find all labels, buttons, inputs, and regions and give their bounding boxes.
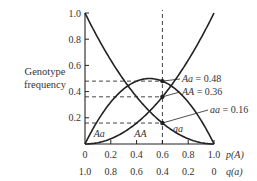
y-tick-label: 0.4 [69,86,82,97]
annotation-genotype: AA [181,86,195,97]
annotation-AA: AA = 0.36 [181,86,222,97]
y-tick-label: 1.0 [69,8,82,19]
annotation-value: = 0.36 [194,86,222,97]
curve-label-AA: AA [133,128,147,139]
y-tick-label: 0.8 [69,34,82,45]
x-tick-label: 0.8 [182,149,195,160]
y-axis-label-line-1: Genotype [25,66,66,77]
annotation-genotype: Aa [181,73,193,84]
x-tick-label: 0.4 [130,149,143,160]
y-tick-label: 0.6 [69,60,82,71]
x2-axis-label: q(a) [226,166,243,178]
curve-label-Aa: Aa [93,128,105,139]
leader-Aa [162,79,180,81]
x-axis-label: p(A) [225,149,244,161]
y-axis-label-line-2: frequency [24,79,67,90]
x-tick-label: 1.0 [208,149,221,160]
annotation-value: = 0.16 [220,104,248,115]
y-axis-label: Genotype frequency [24,66,67,90]
annotation-Aa: Aa = 0.48 [181,73,221,84]
hardy-weinberg-chart: Genotype frequency 01.00.20.80.40.60.60.… [0,0,257,181]
x-tick-label: 0.6 [156,149,169,160]
x-tick-label: 0.2 [105,149,118,160]
y-tick-label: 0.2 [69,112,82,123]
x2-tick-label: 0.8 [105,166,118,177]
x2-tick-label: 0 [212,166,217,177]
annotation-aa: aa = 0.16 [210,104,248,115]
annotation-genotype: aa [210,104,220,115]
x2-tick-label: 0.4 [156,166,169,177]
x2-tick-label: 0.2 [182,166,195,177]
annotation-value: = 0.48 [193,73,221,84]
curve-label-aa: aa [173,123,183,134]
point-aa [160,121,164,125]
x-tick-label: 0 [83,149,88,160]
x2-tick-label: 0.6 [130,166,143,177]
x2-tick-label: 1.0 [79,166,92,177]
